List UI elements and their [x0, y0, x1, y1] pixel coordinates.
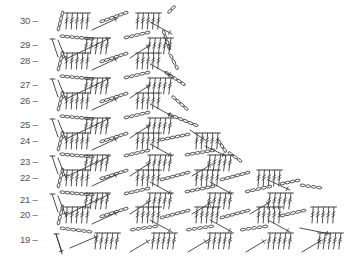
row-label-20: 20 –	[20, 209, 38, 220]
row-label-27: 27 –	[20, 79, 38, 90]
row-label-23: 23 –	[20, 156, 38, 167]
chart-row-19	[54, 225, 344, 254]
row-label-22: 22 –	[20, 172, 38, 183]
row-label-24: 24 –	[20, 135, 38, 146]
chart-row-23	[50, 149, 243, 178]
row-label-21: 21 –	[20, 194, 38, 205]
chart-row-22	[57, 168, 301, 195]
row-label-29: 29 –	[20, 39, 38, 50]
chart-row-21	[50, 184, 322, 216]
crochet-chart	[0, 0, 357, 265]
chart-row-20	[57, 205, 337, 236]
chart-row-29	[50, 30, 174, 60]
row-label-26: 26 –	[20, 95, 38, 106]
chart-row-30	[57, 5, 176, 34]
row-label-30: 30 –	[20, 15, 38, 26]
chart-row-26	[57, 91, 189, 117]
chart-row-24	[57, 131, 227, 157]
row-label-28: 28 –	[20, 55, 38, 66]
row-label-19: 19 –	[20, 234, 38, 245]
chart-row-25	[50, 111, 205, 140]
row-label-25: 25 –	[20, 119, 38, 130]
